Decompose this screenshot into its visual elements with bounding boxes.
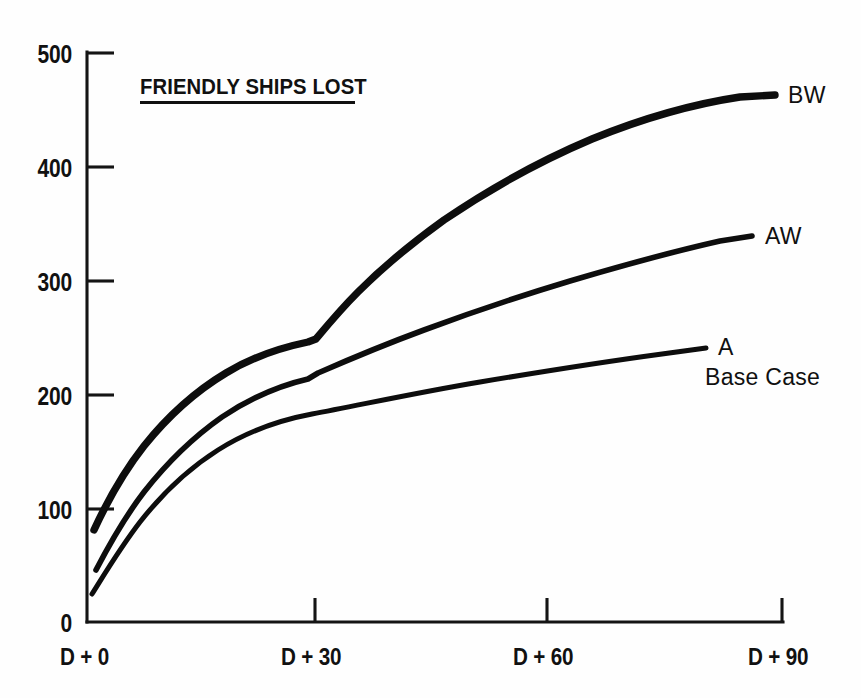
chart-title-underline xyxy=(140,101,355,104)
series-label-bw: BW xyxy=(788,82,826,109)
series-label-base-case: Base Case xyxy=(705,364,820,391)
series-label-aw: AW xyxy=(765,223,802,250)
x-tick-label-d30: D + 30 xyxy=(281,643,341,671)
chart-title: FRIENDLY SHIPS LOST xyxy=(140,74,367,100)
x-tick-label-d0: D + 0 xyxy=(60,643,109,671)
y-tick-label-0: 0 xyxy=(12,609,72,638)
y-tick-label-100: 100 xyxy=(12,496,72,525)
x-tick-label-d90: D + 90 xyxy=(748,643,808,671)
y-tick-label-400: 400 xyxy=(12,154,72,183)
y-tick-label-300: 300 xyxy=(12,268,72,297)
y-tick-label-200: 200 xyxy=(12,382,72,411)
chart-figure: FRIENDLY SHIPS LOST 500 400 300 200 100 … xyxy=(0,0,861,698)
y-tick-label-500: 500 xyxy=(12,40,72,69)
series-label-a: A xyxy=(718,334,734,361)
x-axis-ticks xyxy=(315,598,782,622)
series-line-a xyxy=(92,348,706,594)
x-tick-label-d60: D + 60 xyxy=(513,643,573,671)
series-line-aw xyxy=(96,236,752,570)
y-axis-ticks xyxy=(87,53,114,509)
